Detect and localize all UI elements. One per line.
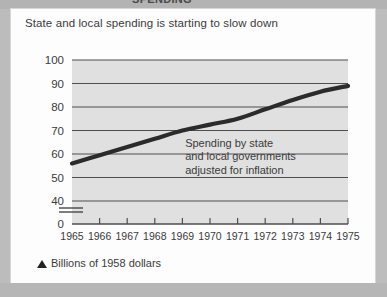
page-left-margin [0,9,11,283]
x-tick-label: 1973 [281,230,305,242]
screenshot-root: SPENDING State and local spending is sta… [0,0,387,297]
x-axis-tick-labels: 1965196619671968196919701971197219731974… [60,230,360,242]
x-tick-label: 1974 [309,230,333,242]
y-tick-label: 70 [51,125,64,137]
annotation-line: and local governments [185,150,296,162]
x-tick-label: 1968 [143,230,167,242]
chart-card: State and local spending is starting to … [11,9,375,283]
clipped-header-band: SPENDING [0,0,387,9]
chart-svg: 0405060708090100 19651966196719681969197… [11,9,375,283]
y-tick-label: 50 [51,172,64,184]
footer-note: Billions of 1958 dollars [37,257,161,269]
y-tick-label: 100 [45,54,64,66]
y-tick-label: 80 [51,101,64,113]
page-bottom-margin [0,283,387,297]
annotation-line: Spending by state [185,137,273,149]
footer-note-label: Billions of 1958 dollars [51,257,161,269]
x-tick-label: 1972 [254,230,278,242]
y-tick-label: 60 [51,148,64,160]
x-tick-label: 1969 [171,230,195,242]
x-tick-label: 1965 [60,230,84,242]
annotation-line: adjusted for inflation [185,164,283,176]
y-tick-label: 40 [51,195,64,207]
triangle-up-icon [37,260,47,268]
x-tick-label: 1971 [226,230,250,242]
x-tick-label: 1966 [88,230,112,242]
y-tick-label: 0 [58,218,64,230]
clipped-header-text: SPENDING [132,0,192,5]
x-tick-label: 1975 [336,230,360,242]
x-tick-label: 1970 [198,230,222,242]
y-tick-label: 90 [51,78,64,90]
x-tick-label: 1967 [116,230,140,242]
line-chart: 0405060708090100 19651966196719681969197… [11,9,375,283]
y-axis-tick-labels: 0405060708090100 [45,54,64,230]
page-right-margin [375,9,387,283]
